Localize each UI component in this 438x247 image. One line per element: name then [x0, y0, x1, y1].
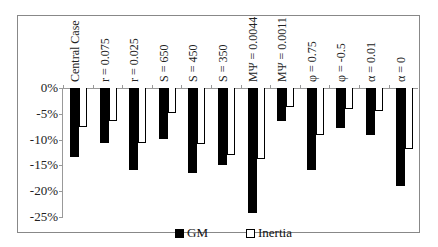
x-tick	[329, 85, 330, 89]
bar-gm	[188, 88, 197, 173]
y-tick	[59, 114, 63, 115]
y-tick-label: -20%	[22, 184, 58, 198]
legend-item-gm: GM	[175, 225, 208, 241]
legend-swatch-gm	[175, 229, 184, 238]
x-tick	[63, 85, 64, 89]
x-tick	[359, 85, 360, 89]
y-tick	[59, 217, 63, 218]
bar-inertia	[168, 88, 176, 113]
x-tick	[122, 85, 123, 89]
y-tick-label: 0%	[22, 81, 58, 95]
category-label: MΨ = 0.0044	[247, 17, 260, 82]
x-tick	[211, 85, 212, 89]
y-tick-label: -15%	[22, 158, 58, 172]
bar-inertia	[138, 88, 146, 143]
category-label: S = 350	[217, 45, 230, 82]
legend-swatch-inertia	[246, 229, 255, 238]
bar-gm	[277, 88, 286, 121]
bar-gm	[396, 88, 405, 186]
x-tick	[389, 85, 390, 89]
bar-inertia	[227, 88, 235, 155]
bar-inertia	[79, 88, 87, 127]
bar-gm	[159, 88, 168, 139]
bar-gm	[366, 88, 375, 135]
legend-label-gm: GM	[187, 225, 208, 241]
category-label: φ = -0.5	[335, 43, 348, 82]
category-label: MΨ = 0.0011	[276, 17, 289, 82]
category-label: α = 0	[395, 57, 408, 82]
bar-inertia	[109, 88, 117, 121]
bar-gm	[100, 88, 109, 143]
y-tick-label: -5%	[22, 107, 58, 121]
bar-inertia	[405, 88, 413, 149]
bar-inertia	[197, 88, 205, 144]
x-tick	[241, 85, 242, 89]
category-label: α = 0.01	[365, 42, 378, 82]
legend-item-inertia: Inertia	[246, 225, 292, 241]
y-axis	[62, 88, 63, 217]
bar-gm	[336, 88, 345, 128]
bar-inertia	[286, 88, 294, 107]
y-tick	[59, 165, 63, 166]
x-tick	[93, 85, 94, 89]
category-label: Central Case	[69, 20, 82, 82]
category-label: r = 0.025	[128, 38, 141, 82]
bar-gm	[70, 88, 79, 157]
y-tick-label: -10%	[22, 133, 58, 147]
bar-gm	[307, 88, 316, 170]
bar-inertia	[345, 88, 353, 109]
y-tick	[59, 191, 63, 192]
x-tick	[300, 85, 301, 89]
category-label: S = 450	[187, 45, 200, 82]
category-label: r = 0.075	[99, 38, 112, 82]
bar-gm	[248, 88, 257, 213]
x-tick	[152, 85, 153, 89]
legend-label-inertia: Inertia	[258, 225, 292, 241]
y-tick-label: -25%	[22, 210, 58, 224]
category-label: S = 650	[158, 45, 171, 82]
bar-gm	[129, 88, 138, 170]
bar-inertia	[257, 88, 265, 159]
y-tick	[59, 140, 63, 141]
category-label: φ = 0.75	[306, 41, 319, 82]
bar-gm	[218, 88, 227, 165]
x-tick	[181, 85, 182, 89]
x-tick	[270, 85, 271, 89]
bar-inertia	[316, 88, 324, 135]
bar-inertia	[375, 88, 383, 111]
